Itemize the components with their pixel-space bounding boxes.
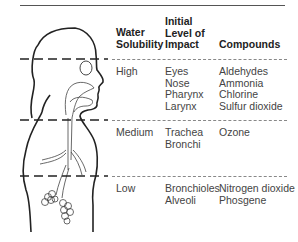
solubility-low: Low (116, 183, 135, 195)
solubility-high: High (116, 66, 138, 78)
header-water-solubility: Water Solubility (116, 27, 163, 50)
row-divider (112, 176, 287, 177)
compounds-list-low: Nitrogen dioxide Phosgene (219, 183, 295, 206)
row-divider (112, 120, 287, 121)
impact-list-high: Eyes Nose Pharynx Larynx (165, 66, 204, 112)
compounds-list-high: Aldehydes Ammonia Chlorine Sulfur dioxid… (219, 66, 283, 112)
row-divider (112, 59, 287, 60)
solubility-medium: Medium (116, 127, 153, 139)
impact-list-low: Bronchioles Alveoli (165, 183, 220, 206)
header-compounds: Compounds (219, 39, 280, 51)
header-initial-level-of-impact: Initial Level of Impact (165, 16, 205, 51)
impact-list-medium: Trachea Bronchi (165, 127, 203, 150)
compounds-list-medium: Ozone (219, 127, 250, 139)
